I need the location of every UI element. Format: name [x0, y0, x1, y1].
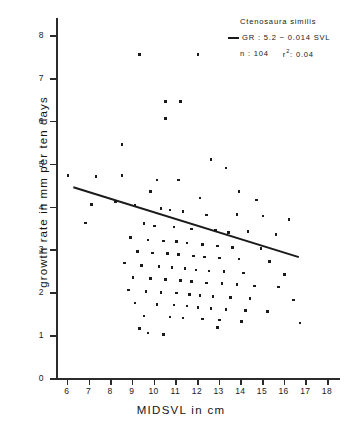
legend-r-squared: r2: 0.04	[283, 49, 314, 59]
legend-species-name: Ctenosaura similis	[228, 18, 358, 26]
y-tick-0	[50, 378, 57, 380]
y-tick-label-1: 1	[28, 330, 44, 340]
x-tick-9	[132, 378, 134, 385]
x-tick-label-15: 15	[253, 386, 271, 396]
legend-equation-row: GR : 5.2 − 0.014 SVL	[228, 34, 358, 42]
legend-stats-row: n : 104 r2: 0.04	[228, 49, 358, 59]
x-tick-15	[262, 378, 264, 385]
y-tick-label-8: 8	[28, 30, 44, 40]
x-tick-7	[89, 378, 91, 385]
regression-line	[56, 18, 340, 378]
x-tick-11	[175, 378, 177, 385]
legend-sample-size: n : 104	[240, 50, 269, 58]
x-axis-title: MIDSVL in cm	[56, 404, 306, 416]
regression-line-swatch-icon	[228, 37, 239, 39]
x-tick-label-6: 6	[58, 386, 76, 396]
y-tick-label-0: 0	[28, 373, 44, 383]
x-tick-8	[110, 378, 112, 385]
legend: Ctenosaura similis GR : 5.2 − 0.014 SVL …	[228, 18, 358, 65]
x-tick-label-16: 16	[275, 386, 293, 396]
x-tick-10	[154, 378, 156, 385]
x-tick-label-12: 12	[188, 386, 206, 396]
x-tick-16	[284, 378, 286, 385]
x-tick-label-11: 11	[166, 386, 184, 396]
x-tick-12	[197, 378, 199, 385]
plot-area	[56, 18, 340, 378]
scatter-plot-figure: 012345678 6789101112131415161718 growth …	[0, 0, 360, 448]
x-tick-label-14: 14	[231, 386, 249, 396]
x-tick-label-13: 13	[210, 386, 228, 396]
x-tick-13	[219, 378, 221, 385]
x-tick-label-10: 10	[145, 386, 163, 396]
x-tick-14	[240, 378, 242, 385]
x-tick-label-8: 8	[101, 386, 119, 396]
legend-r-value: : 0.04	[290, 49, 314, 58]
x-tick-label-18: 18	[318, 386, 336, 396]
x-tick-17	[305, 378, 307, 385]
x-tick-6	[67, 378, 69, 385]
x-tick-label-9: 9	[123, 386, 141, 396]
x-tick-label-17: 17	[296, 386, 314, 396]
legend-equation: GR : 5.2 − 0.014 SVL	[242, 34, 330, 42]
x-tick-label-7: 7	[80, 386, 98, 396]
y-axis-title: growth rate in mm per ten days	[37, 57, 49, 327]
x-tick-18	[327, 378, 329, 385]
